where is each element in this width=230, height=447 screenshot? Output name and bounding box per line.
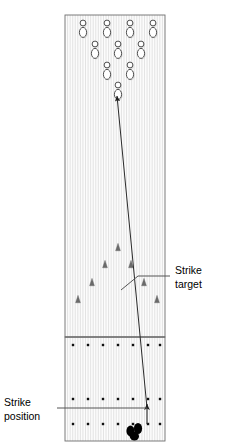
approach-dot-r1-c4 [117, 344, 119, 346]
approach-dot-r3-c3 [102, 423, 104, 425]
diagram-canvas: Strike target Strike position [0, 0, 230, 447]
strike-target-label: Strike target [175, 264, 202, 290]
approach-surface [65, 337, 165, 441]
approach-dot-r1-c1 [72, 344, 74, 346]
strike-position-label-line2: position [4, 410, 40, 422]
lane-surface [65, 15, 165, 337]
approach-dot-r2-c5 [132, 398, 134, 400]
approach-dot-r3-c1 [72, 423, 74, 425]
approach-dot-r1-c7 [159, 344, 161, 346]
strike-position-label-line1: Strike [4, 396, 31, 408]
strike-target-label-line1: Strike [175, 264, 202, 276]
approach-dot-r3-c5 [132, 423, 134, 425]
approach-dot-r3-c4 [117, 423, 119, 425]
approach-dot-r1-c2 [87, 344, 89, 346]
approach-dot-r2-c6 [147, 398, 149, 400]
approach-dot-r3-c2 [87, 423, 89, 425]
approach-dot-r1-c5 [132, 344, 134, 346]
approach-dot-r1-c3 [102, 344, 104, 346]
approach-dot-r2-c1 [72, 398, 74, 400]
approach-dot-r1-c6 [147, 344, 149, 346]
approach-dot-r2-c4 [117, 398, 119, 400]
strike-position-label: Strike position [4, 396, 40, 422]
bowling-lane-diagram: Strike target Strike position [0, 0, 230, 447]
approach-dot-r2-c7 [159, 398, 161, 400]
approach-dot-r2-c2 [87, 398, 89, 400]
strike-target-label-line2: target [175, 278, 202, 290]
approach-dot-r2-c3 [102, 398, 104, 400]
approach-dot-r3-c7 [159, 423, 161, 425]
bowler-heel [130, 432, 139, 441]
